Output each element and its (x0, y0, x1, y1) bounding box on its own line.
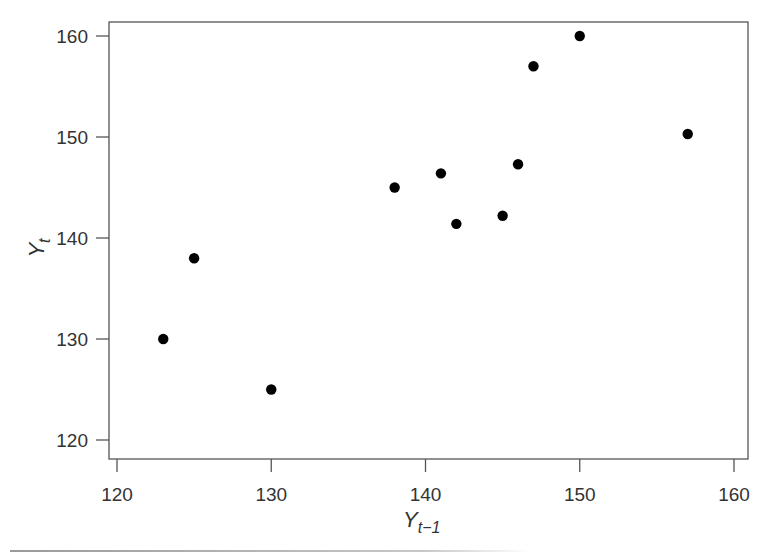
data-point (513, 159, 523, 169)
x-axis: 120130140150160 (101, 459, 750, 505)
data-point (497, 211, 507, 221)
data-point (266, 384, 276, 394)
x-tick-label: 160 (718, 484, 750, 505)
y-tick-label: 160 (56, 26, 88, 47)
divider-rule (10, 550, 530, 552)
x-tick-label: 140 (410, 484, 442, 505)
y-tick-label: 140 (56, 228, 88, 249)
x-tick-label: 130 (255, 484, 287, 505)
y-tick-label: 120 (56, 430, 88, 451)
data-point (575, 31, 585, 41)
data-point (451, 219, 461, 229)
y-axis-label: Yt (24, 238, 53, 258)
scatter-plot: 120130140150160 120130140150160 Yt−1 Yt (0, 0, 772, 553)
data-point (389, 182, 399, 192)
data-points (158, 31, 693, 395)
data-point (528, 61, 538, 71)
x-tick-label: 150 (564, 484, 596, 505)
plot-frame (109, 22, 748, 459)
data-point (158, 334, 168, 344)
data-point (189, 253, 199, 263)
y-tick-label: 150 (56, 127, 88, 148)
y-axis: 120130140150160 (56, 26, 109, 451)
x-axis-label: Yt−1 (403, 507, 440, 536)
x-tick-label: 120 (101, 484, 133, 505)
y-tick-label: 130 (56, 329, 88, 350)
data-point (436, 168, 446, 178)
data-point (683, 129, 693, 139)
